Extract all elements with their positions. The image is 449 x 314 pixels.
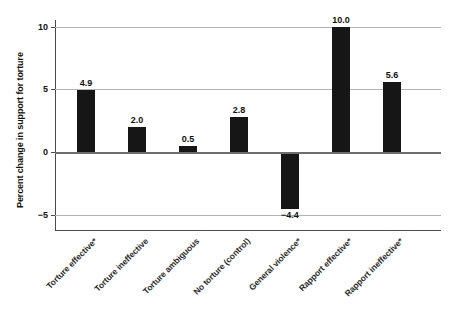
bar-value-torture-ineffective: 2.0 xyxy=(117,115,157,126)
gridline-zero xyxy=(55,152,441,154)
gridline-neg5 xyxy=(55,215,441,216)
bar-value-general-violence: −4.4 xyxy=(270,210,310,221)
bar-value-rapport-ineffective: 5.6 xyxy=(372,70,412,81)
plot-area xyxy=(55,20,441,231)
y-tick-group-neg5: −5 xyxy=(18,210,48,220)
bar-value-no-torture-control: 2.8 xyxy=(219,105,259,116)
y-tick-group-0: 0 xyxy=(18,147,48,157)
bar-rapport-effective xyxy=(332,27,350,152)
y-tick-label-0: 0 xyxy=(20,147,48,157)
bar-no-torture-control xyxy=(230,117,248,152)
bar-value-torture-effective: 4.9 xyxy=(66,78,106,89)
y-tick-group-10: 10 xyxy=(18,22,48,32)
bar-chart: Percent change in support for torture 10… xyxy=(0,0,449,314)
y-axis-title: Percent change in support for torture xyxy=(13,18,27,208)
y-tick-label-10: 10 xyxy=(20,22,48,32)
y-tick-group-5: 5 xyxy=(18,84,48,94)
gridline-10 xyxy=(55,27,441,28)
bar-value-torture-ambiguous: 0.5 xyxy=(168,134,208,145)
y-tick-label-neg5: −5 xyxy=(20,210,48,220)
bar-value-rapport-effective: 10.0 xyxy=(321,15,361,26)
y-tick-label-5: 5 xyxy=(20,84,48,94)
bar-general-violence xyxy=(281,154,299,209)
bar-torture-effective xyxy=(77,90,95,152)
bar-torture-ineffective xyxy=(128,127,146,152)
bar-torture-ambiguous xyxy=(179,146,197,152)
bar-rapport-ineffective xyxy=(383,82,401,152)
